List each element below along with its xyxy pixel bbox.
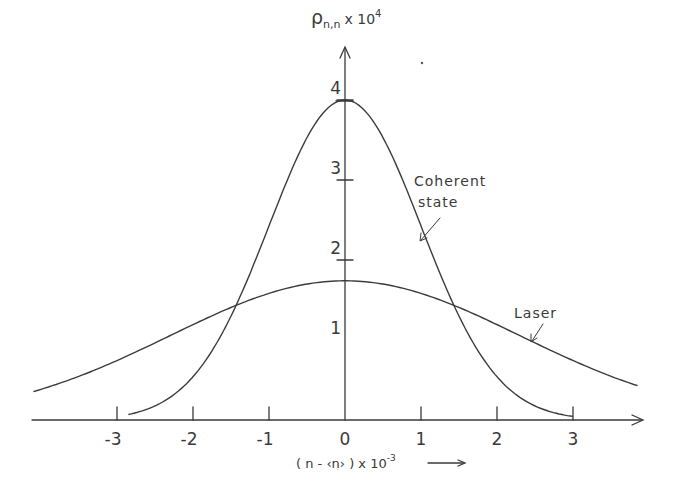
x-tick-label: 1	[416, 429, 427, 449]
state-label: state	[418, 194, 458, 210]
x-axis-text: ( n - ‹n› ) x 10	[296, 456, 387, 471]
y-axis-factor: x 10	[345, 11, 376, 27]
laser-pointer-arrow-icon	[531, 324, 543, 342]
y-ticks: 1234	[330, 78, 353, 338]
y-tick-label: 3	[330, 158, 341, 178]
y-tick-label: 1	[330, 318, 341, 338]
x-tick-label: -2	[181, 429, 198, 449]
y-tick-label: 2	[330, 238, 341, 258]
y-axis-subscript: n,n	[323, 18, 340, 31]
coherent-state-curve	[128, 100, 573, 416]
x-axis-title: ( n - ‹n› ) x 10-3	[296, 453, 396, 471]
x-tick-label: -3	[105, 429, 122, 449]
x-axis: -3-2-10123	[32, 407, 643, 449]
chart: -3-2-10123 1234 ρn,nx 104 ( n - ‹n› ) x …	[0, 0, 676, 493]
x-tick-label: -1	[257, 429, 274, 449]
x-axis-title-arrow-icon	[428, 460, 465, 466]
x-axis-exponent: -3	[387, 453, 396, 463]
y-axis-exponent: 4	[375, 8, 381, 19]
coherent-label: Coherent	[414, 173, 486, 189]
x-tick-label: 2	[492, 429, 503, 449]
x-tick-label: 3	[568, 429, 579, 449]
y-axis-symbol: ρ	[311, 6, 323, 28]
stray-dot	[421, 62, 423, 64]
laser-label: Laser	[514, 305, 557, 321]
x-ticks: -3-2-10123	[105, 407, 579, 449]
x-tick-label: 0	[340, 429, 351, 449]
y-axis-title: ρn,nx 104	[311, 6, 381, 31]
y-tick-label: 4	[330, 78, 341, 98]
